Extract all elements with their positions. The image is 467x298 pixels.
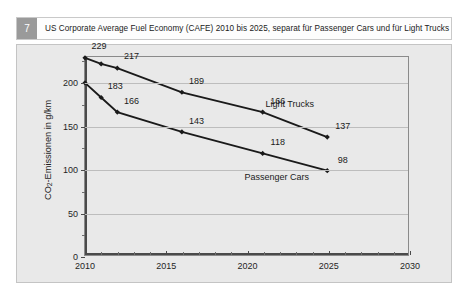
x-axis-minor-tick [101,252,102,255]
y-axis-tick [81,127,85,128]
y-axis-title-subscript: 2 [46,182,53,186]
x-axis-tick-label: 2025 [319,261,339,271]
x-axis-minor-tick [264,252,265,255]
plot-inner: 0501001502002010201520202025203022921718… [85,57,408,255]
x-axis-tick-label: 2015 [156,261,176,271]
figure-header: 7 US Corporate Average Fuel Economy (CAF… [16,17,452,40]
data-point-label: 118 [271,137,285,147]
x-axis-minor-tick [296,252,297,255]
series-label-light-trucks: Light Trucks [265,99,314,109]
series-label-passenger-cars: Passenger Cars [244,172,309,182]
series-line [85,58,327,137]
x-axis-tick [85,251,86,255]
data-point-label: 98 [338,155,348,165]
x-axis-tick [248,251,249,255]
data-point-label: 183 [108,81,123,91]
data-point-marker [115,66,120,71]
data-point-label: 137 [335,121,350,131]
figure-number-badge: 7 [17,18,37,39]
y-axis-tick-label: 50 [68,209,78,219]
y-axis-tick-label: 100 [63,165,78,175]
x-axis-tick [166,251,167,255]
data-point-label: 166 [124,96,139,106]
x-axis-minor-tick [231,252,232,255]
series-lines [85,57,408,255]
x-axis-minor-tick [134,252,135,255]
data-point-label: 217 [124,51,139,61]
x-axis-tick [329,251,330,255]
y-axis-tick-label: 150 [63,122,78,132]
y-axis-minor-tick [82,105,85,106]
screenshot-root: 7 US Corporate Average Fuel Economy (CAF… [0,0,467,298]
data-point-marker [260,110,265,115]
x-axis-minor-tick [361,252,362,255]
y-axis-title-prefix: CO [43,186,53,200]
data-point-marker [325,134,330,139]
y-axis-minor-tick [82,61,85,62]
data-point-label: 189 [189,76,204,86]
gridline-horizontal [85,170,408,171]
gridline-horizontal [85,214,408,215]
y-axis-title-suffix: -Emissionen in g/km [43,100,53,183]
y-axis-tick-label: 200 [63,78,78,88]
x-axis-tick [410,251,411,255]
figure-title: US Corporate Average Fuel Economy (CAFE)… [37,18,451,39]
x-axis-minor-tick [183,252,184,255]
y-axis-title: CO2-Emissionen in g/km [43,100,53,200]
x-axis-tick-label: 2030 [400,261,420,271]
gridline-horizontal [85,83,408,84]
x-axis-minor-tick [345,252,346,255]
plot-area: 0501001502002010201520202025203022921718… [84,56,409,256]
chart-card: CO2-Emissionen in g/km 05010015020020102… [16,44,452,283]
y-axis-minor-tick [82,235,85,236]
x-axis-minor-tick [313,252,314,255]
x-axis-minor-tick [215,252,216,255]
data-point-marker [82,55,87,60]
x-axis-minor-tick [199,252,200,255]
data-point-marker [260,151,265,156]
gridline-horizontal [85,127,408,128]
x-axis-minor-tick [118,252,119,255]
y-axis-tick [81,257,85,258]
x-axis-minor-tick [280,252,281,255]
x-axis-minor-tick [378,252,379,255]
x-axis-tick-label: 2020 [237,261,257,271]
y-axis-minor-tick [82,148,85,149]
y-axis-tick [81,214,85,215]
data-point-marker [99,61,104,66]
data-point-marker [179,90,184,95]
y-axis-tick [81,170,85,171]
data-point-label: 143 [189,116,204,126]
x-axis-minor-tick [394,252,395,255]
data-point-marker [179,129,184,134]
data-point-label: 229 [91,41,106,51]
y-axis-minor-tick [82,192,85,193]
x-axis-tick-label: 2010 [75,261,95,271]
x-axis-minor-tick [150,252,151,255]
y-axis-tick [81,83,85,84]
